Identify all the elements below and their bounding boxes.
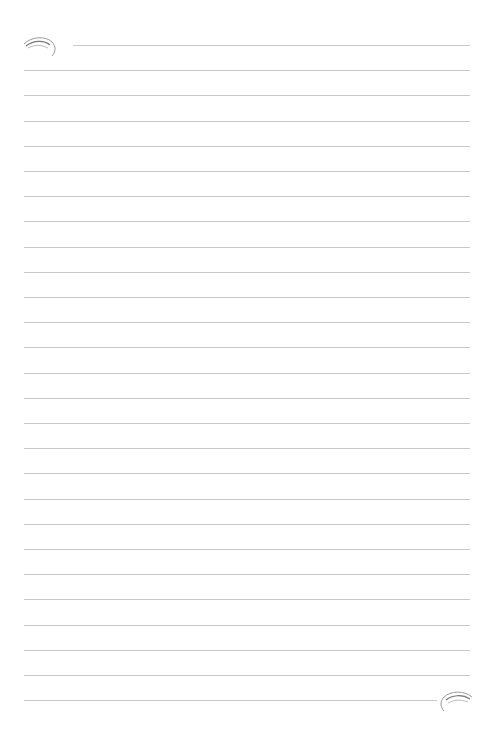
ruled-line: [24, 574, 470, 575]
ruled-line: [24, 95, 470, 96]
ruled-line: [24, 499, 470, 500]
ruled-line: [24, 297, 470, 298]
ruled-line: [24, 398, 470, 399]
top-left-flourish-icon: [22, 34, 58, 58]
ruled-line: [24, 196, 470, 197]
ruled-line: [24, 146, 470, 147]
ruled-line: [24, 599, 470, 600]
ruled-line: [24, 272, 470, 273]
ruled-line: [24, 625, 470, 626]
ruled-line: [24, 347, 470, 348]
lined-paper-page: [0, 0, 496, 743]
bottom-right-flourish-icon: [438, 689, 474, 713]
ruled-line: [73, 45, 470, 46]
ruled-line: [24, 473, 470, 474]
ruled-line: [24, 675, 470, 676]
ruled-line: [24, 448, 470, 449]
ruled-line: [24, 650, 470, 651]
ruled-line: [24, 700, 437, 701]
ruled-line: [24, 322, 470, 323]
ruled-line: [24, 423, 470, 424]
ruled-line: [24, 70, 470, 71]
ruled-line: [24, 524, 470, 525]
ruled-line: [24, 121, 470, 122]
ruled-line: [24, 373, 470, 374]
ruled-line: [24, 221, 470, 222]
ruled-line: [24, 549, 470, 550]
ruled-line: [24, 247, 470, 248]
ruled-line: [24, 171, 470, 172]
